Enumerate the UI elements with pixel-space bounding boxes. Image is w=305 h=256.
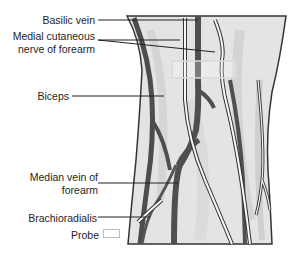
- probe-legend-swatch: [103, 229, 120, 238]
- probe-overlay: [172, 61, 236, 78]
- label-median-vein-line1: Median vein of: [30, 171, 98, 183]
- label-probe: Probe: [71, 229, 99, 241]
- label-median-vein-line2: forearm: [62, 184, 98, 196]
- label-brachioradialis: Brachioradialis: [28, 212, 97, 224]
- label-medial-cutaneous-line1: Medial cutaneous: [13, 30, 95, 42]
- label-basilic-vein: Basilic vein: [42, 14, 95, 26]
- label-biceps: Biceps: [37, 90, 69, 102]
- label-medial-cutaneous-line2: nerve of forearm: [18, 43, 95, 55]
